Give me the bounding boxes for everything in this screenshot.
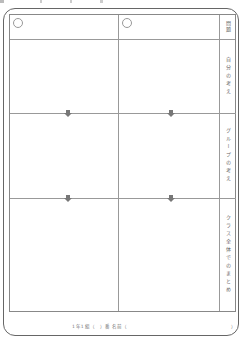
label-class-summary-text: クラス全体でのまとめ — [225, 215, 233, 295]
cell-class-left[interactable] — [10, 199, 118, 311]
circle-marker-icon — [13, 18, 23, 28]
cell-class-right[interactable] — [119, 199, 219, 311]
name-close-paren: ） — [231, 323, 235, 329]
label-group-thought-text: グループの考え — [225, 128, 233, 184]
down-arrow-icon — [167, 110, 175, 117]
cell-self-left[interactable] — [10, 40, 118, 113]
down-arrow-icon — [64, 195, 72, 202]
down-arrow-icon — [167, 195, 175, 202]
circle-marker-icon — [122, 18, 132, 28]
header-cell-left[interactable] — [10, 15, 118, 39]
label-problem: 問題 — [220, 15, 237, 39]
cell-group-left[interactable] — [10, 114, 118, 198]
label-problem-text: 問題 — [225, 21, 233, 33]
cropped-header-strip — [0, 0, 247, 3]
label-self-thought: 自分の考え — [220, 40, 237, 113]
label-self-thought-text: 自分の考え — [225, 57, 233, 97]
down-arrow-icon — [64, 110, 72, 117]
cell-group-right[interactable] — [119, 114, 219, 198]
label-group-thought: グループの考え — [220, 114, 237, 198]
worksheet-table: 問題 自分の考え グループの考え クラス全体でのまとめ — [9, 14, 236, 312]
header-cell-middle[interactable] — [119, 15, 219, 39]
cell-self-right[interactable] — [119, 40, 219, 113]
label-class-summary: クラス全体でのまとめ — [220, 199, 237, 311]
student-name-line[interactable]: 1年1組（ ）番 名前（ — [72, 323, 127, 329]
